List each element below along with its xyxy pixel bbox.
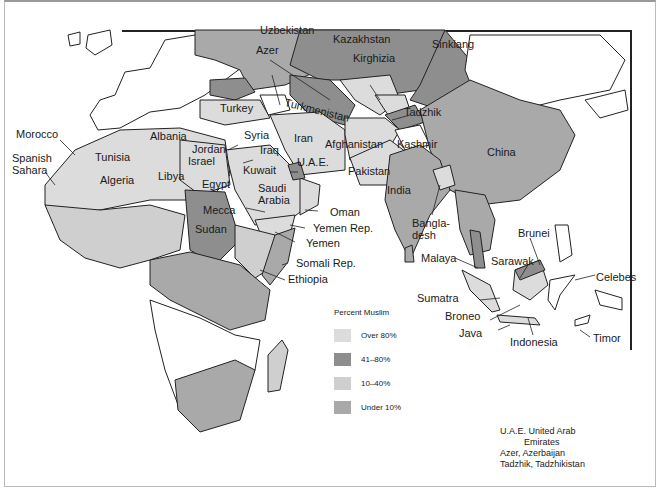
label-azer: Azer xyxy=(256,44,279,56)
label-india: India xyxy=(387,184,411,196)
label-ethiopia: Ethiopia xyxy=(288,273,328,285)
label-yemen: Yemen xyxy=(306,237,340,249)
philippines-island xyxy=(555,225,572,262)
label-turkey: Turkey xyxy=(220,102,253,114)
label-java: Java xyxy=(459,327,482,339)
timor-island xyxy=(575,315,590,326)
label-egypt: Egypt xyxy=(202,178,230,190)
label-jordan: Jordan xyxy=(192,143,226,155)
java-island xyxy=(497,315,540,325)
legend-label: 10–40% xyxy=(361,379,390,388)
label-china: China xyxy=(487,146,516,158)
label-morocco: Morocco xyxy=(16,128,58,140)
label-iran: Iran xyxy=(294,132,313,144)
label-libya: Libya xyxy=(158,170,184,182)
oman-region xyxy=(300,178,320,215)
note-uae: U.A.E. United Arab xyxy=(500,426,585,437)
britain-island xyxy=(86,30,112,55)
label-uzbekistan: Uzbekistan xyxy=(260,24,314,36)
label-kirghizia: Kirghizia xyxy=(353,52,395,64)
legend-swatch-10-40 xyxy=(334,377,351,390)
sumatra-island xyxy=(462,270,500,312)
label-kuwait: Kuwait xyxy=(243,164,276,176)
label-bangladesh: Bangla- desh xyxy=(412,217,450,241)
label-pakistan: Pakistan xyxy=(348,165,390,177)
label-indonesia: Indonesia xyxy=(510,336,558,348)
legend-label: 41–80% xyxy=(361,355,390,364)
label-oman: Oman xyxy=(330,206,360,218)
legend-title: Percent Muslim xyxy=(334,308,401,317)
label-afghanistan: Afghanistan xyxy=(325,138,383,150)
label-sinkiang: Sinkiang xyxy=(432,38,474,50)
label-timor: Timor xyxy=(593,332,621,344)
legend-item-under-10: Under 10% xyxy=(334,395,401,419)
label-sudan: Sudan xyxy=(195,223,227,235)
label-broneo: Broneo xyxy=(445,310,480,322)
label-iraq: Iraq xyxy=(260,144,279,156)
abbreviation-notes: U.A.E. United Arab Emirates Azer, Azerba… xyxy=(500,426,585,470)
legend-label: Under 10% xyxy=(361,403,401,412)
label-albania: Albania xyxy=(150,130,187,142)
note-azer: Azer, Azerbaijan xyxy=(500,448,585,459)
note-uae-cont: Emirates xyxy=(500,437,585,448)
label-algeria: Algeria xyxy=(100,174,134,186)
label-mecca: Mecca xyxy=(203,204,235,216)
label-spanish-sahara: Spanish Sahara xyxy=(12,152,52,176)
legend-swatch-under-10 xyxy=(334,401,351,414)
legend-item-10-40: 10–40% xyxy=(334,371,401,395)
label-israel: Israel xyxy=(188,155,215,167)
legend-item-over-80: Over 80% xyxy=(334,323,401,347)
label-uae: U.A.E. xyxy=(297,156,329,168)
label-saudi-arabia: Saudi Arabia xyxy=(258,182,290,206)
india-region xyxy=(385,145,450,260)
label-brunei: Brunei xyxy=(518,227,550,239)
label-somali-rep: Somali Rep. xyxy=(296,257,356,269)
label-sarawak: Sarawak xyxy=(491,255,534,267)
label-tadzhik: Tadzhik xyxy=(404,106,441,118)
legend-swatch-41-80 xyxy=(334,353,351,366)
legend-item-41-80: 41–80% xyxy=(334,347,401,371)
ireland-island xyxy=(68,32,80,46)
label-kashmir: Kashmir xyxy=(397,138,437,150)
celebes-island xyxy=(548,275,575,310)
sri-lanka-island xyxy=(405,245,414,262)
label-malaya: Malaya xyxy=(421,252,456,264)
note-tadzhik: Tadzhik, Tadzhikistan xyxy=(500,459,585,470)
label-yemen-rep: Yemen Rep. xyxy=(313,222,373,234)
legend-label: Over 80% xyxy=(361,331,397,340)
new-guinea-island xyxy=(595,290,622,310)
label-celebes: Celebes xyxy=(596,271,636,283)
legend-swatch-over-80 xyxy=(334,329,351,342)
legend: Percent Muslim Over 80% 41–80% 10–40% Un… xyxy=(334,308,401,419)
madagascar-island xyxy=(268,340,288,392)
label-syria: Syria xyxy=(244,129,269,141)
label-sumatra: Sumatra xyxy=(417,292,459,304)
label-tunisia: Tunisia xyxy=(95,151,130,163)
label-kazakhstan: Kazakhstan xyxy=(333,33,390,45)
